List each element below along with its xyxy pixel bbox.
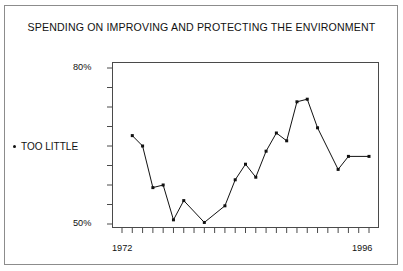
data-point-marker — [347, 155, 350, 158]
data-point-marker — [275, 132, 278, 135]
data-point-marker — [265, 150, 268, 153]
data-line-plot — [112, 62, 379, 228]
x-axis-tick-label-start: 1972 — [112, 243, 132, 253]
data-point-marker — [368, 155, 371, 158]
x-axis-tick-label-end: 1996 — [352, 243, 372, 253]
y-axis-tick-label-top: 80% — [73, 62, 91, 72]
legend-series-too-little: TOO LITTLE — [13, 141, 78, 152]
data-point-marker — [151, 186, 154, 189]
data-point-marker — [223, 204, 226, 207]
page-title: SPENDING ON IMPROVING AND PROTECTING THE… — [0, 21, 403, 33]
data-point-marker — [254, 176, 257, 179]
y-axis-tick-label-bottom: 50% — [73, 218, 91, 228]
data-point-marker — [131, 134, 134, 137]
data-point-marker — [172, 218, 175, 221]
data-point-marker — [162, 184, 165, 187]
data-point-marker — [141, 145, 144, 148]
data-point-marker — [337, 168, 340, 171]
data-point-marker — [285, 139, 288, 142]
dot-marker-icon — [13, 145, 16, 148]
data-point-marker — [203, 221, 206, 224]
data-point-marker — [182, 199, 185, 202]
data-series-line — [132, 99, 369, 222]
data-point-marker — [295, 100, 298, 103]
data-point-marker — [306, 98, 309, 101]
data-point-marker — [244, 163, 247, 166]
legend-label-text: TOO LITTLE — [21, 141, 78, 152]
data-point-marker — [316, 126, 319, 129]
data-point-marker — [234, 178, 237, 181]
chart-figure: SPENDING ON IMPROVING AND PROTECTING THE… — [0, 0, 403, 271]
